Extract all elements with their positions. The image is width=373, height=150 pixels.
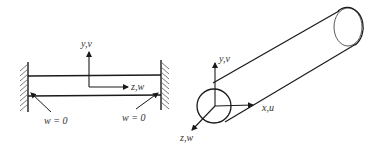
- x-axis-arrow-icon: [215, 105, 253, 106]
- right-z-axis-arrow-icon: [192, 106, 215, 130]
- right-fixed-wall: [161, 60, 169, 110]
- right-boundary-condition-label: w = 0: [122, 112, 145, 123]
- right-z-axis-label: z,w: [179, 132, 193, 143]
- cylinder-back-end: [334, 8, 362, 46]
- x-axis-label: x,u: [261, 102, 274, 113]
- cylinder-diagram: y,v x,u z,w: [179, 7, 363, 143]
- cylinder-back-outer-arc: [338, 7, 363, 45]
- left-y-axis-label: y,v: [80, 38, 92, 49]
- left-boundary-condition-label: w = 0: [44, 115, 67, 126]
- cylinder-top-edge: [213, 11, 339, 83]
- left-fixed-wall: [20, 62, 28, 112]
- right-wall-hatching: [161, 62, 169, 109]
- right-y-axis-label: y,v: [218, 53, 230, 64]
- cylinder-bottom-edge: [225, 44, 356, 122]
- clamped-beam-diagram: y,v z,w w = 0 w = 0: [20, 38, 169, 126]
- left-z-axis-label: z,w: [130, 81, 144, 92]
- diagram-canvas: y,v z,w w = 0 w = 0 y,v x,u z,w: [0, 0, 373, 150]
- left-wall-hatching: [20, 64, 28, 111]
